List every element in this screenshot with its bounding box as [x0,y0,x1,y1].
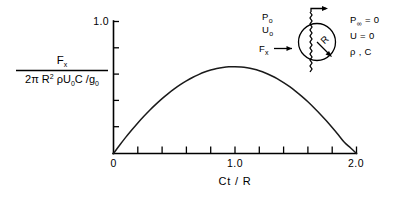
x-axis-title: Ct / R [219,175,252,187]
x-axis-ticks [138,147,357,154]
y-axis-label-denominator: 2π R2 ρU0C /g0 [25,73,99,87]
inset-top-arrow [311,6,328,12]
inset-radius-label: R [318,33,331,46]
inset-force-label: Fx [259,43,269,56]
inset-force-arrow [274,46,292,51]
inset-far-velocity-label: U = 0 [350,30,374,41]
y-axis-ticks [114,22,120,127]
x-tick-label-mid: 1.0 [227,157,243,169]
x-tick-label-end: 2.0 [348,157,364,169]
inset-upstream-velocity-label: Uo [262,24,273,37]
inset-jet-line [310,12,312,72]
inset-far-pressure-label: P∞ = 0 [350,14,379,27]
force-vs-time-chart: Fx 2π R2 ρU0C /g0 [0,0,406,197]
x-tick-label-origin: 0 [110,157,116,169]
inset-properties-label: ρ , C [350,46,372,57]
data-curve [114,67,357,154]
y-axis-label: Fx 2π R2 ρU0C /g0 [16,54,108,87]
y-tick-label-top: 1.0 [93,15,109,27]
y-axis-label-numerator: Fx [57,54,68,68]
figure-container: Fx 2π R2 ρU0C /g0 [0,0,406,197]
inset-schematic: Po Uo Fx [259,6,379,72]
inset-upstream-pressure-label: Po [262,11,273,24]
